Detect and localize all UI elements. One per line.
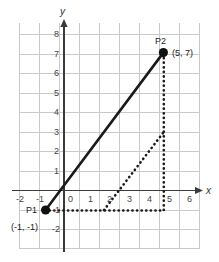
y-axis-arrowhead: [60, 19, 67, 27]
x-tick-label-6: 6: [187, 195, 192, 204]
y-tick-label-4: 4: [54, 108, 59, 117]
point-label-p1: P1: [26, 205, 37, 215]
x-tick-label-3: 3: [127, 195, 132, 204]
point-marker-p1: [41, 205, 50, 214]
coordinate-plane-figure: y x -2 -1 0 1 2 3 4 5 6 8 7 6 5 4 3 2 1 …: [0, 0, 219, 262]
y-tick-label-6: 6: [54, 69, 59, 78]
y-tick-label-1: 1: [54, 167, 59, 176]
x-tick-label-5: 5: [167, 195, 172, 204]
y-tick-label--1: -1: [52, 206, 60, 215]
x-axis-label: x: [206, 186, 211, 196]
x-tick-label-4: 4: [147, 195, 152, 204]
point-coords-p1: (-1, -1): [11, 222, 38, 232]
y-tick-label-5: 5: [54, 89, 59, 98]
x-tick-label-1: 1: [88, 195, 93, 204]
x-tick-label--1: -1: [36, 195, 44, 204]
y-tick-label-7: 7: [54, 50, 59, 59]
point-label-p2: P2: [155, 36, 166, 46]
y-tick-label--2: -2: [52, 225, 60, 234]
x-tick-label-2: 2: [107, 195, 112, 204]
point-coords-p2: (5, 7): [172, 48, 193, 58]
point-marker-p2: [159, 48, 168, 57]
y-axis-label: y: [60, 7, 65, 17]
y-tick-label-2: 2: [54, 147, 59, 156]
y-tick-label-3: 3: [54, 128, 59, 137]
y-tick-label-8: 8: [54, 30, 59, 39]
x-tick-label--2: -2: [16, 195, 24, 204]
x-tick-label-0: 0: [68, 195, 73, 204]
